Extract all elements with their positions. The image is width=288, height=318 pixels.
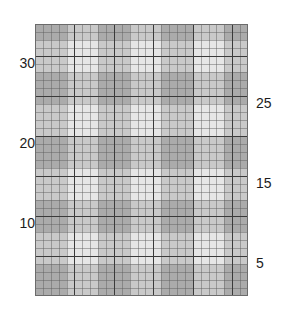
chart-cell[interactable] bbox=[82, 176, 90, 184]
chart-cell[interactable] bbox=[177, 208, 185, 216]
chart-cell[interactable] bbox=[153, 72, 161, 80]
chart-cell[interactable] bbox=[130, 48, 138, 56]
chart-cell[interactable] bbox=[145, 272, 153, 280]
chart-cell[interactable] bbox=[74, 112, 82, 120]
chart-cell[interactable] bbox=[185, 240, 193, 248]
chart-cell[interactable] bbox=[122, 120, 130, 128]
chart-cell[interactable] bbox=[90, 128, 98, 136]
chart-cell[interactable] bbox=[177, 64, 185, 72]
chart-cell[interactable] bbox=[209, 136, 217, 144]
chart-cell[interactable] bbox=[67, 280, 75, 288]
chart-cell[interactable] bbox=[169, 224, 177, 232]
chart-cell[interactable] bbox=[59, 24, 67, 32]
chart-cell[interactable] bbox=[216, 88, 224, 96]
chart-cell[interactable] bbox=[216, 64, 224, 72]
chart-cell[interactable] bbox=[185, 152, 193, 160]
chart-cell[interactable] bbox=[67, 176, 75, 184]
chart-cell[interactable] bbox=[224, 64, 232, 72]
chart-cell[interactable] bbox=[59, 256, 67, 264]
chart-cell[interactable] bbox=[51, 176, 59, 184]
chart-cell[interactable] bbox=[114, 72, 122, 80]
chart-cell[interactable] bbox=[59, 48, 67, 56]
chart-cell[interactable] bbox=[185, 256, 193, 264]
chart-cell[interactable] bbox=[224, 48, 232, 56]
chart-cell[interactable] bbox=[122, 152, 130, 160]
chart-cell[interactable] bbox=[169, 88, 177, 96]
chart-cell[interactable] bbox=[138, 160, 146, 168]
chart-cell[interactable] bbox=[90, 224, 98, 232]
chart-cell[interactable] bbox=[240, 192, 248, 200]
chart-cell[interactable] bbox=[161, 168, 169, 176]
chart-cell[interactable] bbox=[74, 256, 82, 264]
chart-cell[interactable] bbox=[185, 136, 193, 144]
chart-cell[interactable] bbox=[82, 152, 90, 160]
chart-cell[interactable] bbox=[98, 264, 106, 272]
chart-cell[interactable] bbox=[74, 216, 82, 224]
chart-cell[interactable] bbox=[43, 256, 51, 264]
chart-cell[interactable] bbox=[98, 136, 106, 144]
chart-cell[interactable] bbox=[90, 216, 98, 224]
chart-cell[interactable] bbox=[232, 80, 240, 88]
chart-cell[interactable] bbox=[232, 272, 240, 280]
chart-cell[interactable] bbox=[232, 248, 240, 256]
chart-cell[interactable] bbox=[114, 120, 122, 128]
chart-cell[interactable] bbox=[138, 128, 146, 136]
chart-cell[interactable] bbox=[153, 240, 161, 248]
chart-cell[interactable] bbox=[59, 280, 67, 288]
chart-cell[interactable] bbox=[43, 24, 51, 32]
chart-cell[interactable] bbox=[161, 72, 169, 80]
chart-cell[interactable] bbox=[106, 240, 114, 248]
chart-cell[interactable] bbox=[130, 128, 138, 136]
chart-cell[interactable] bbox=[43, 280, 51, 288]
chart-cell[interactable] bbox=[216, 48, 224, 56]
chart-cell[interactable] bbox=[114, 232, 122, 240]
chart-cell[interactable] bbox=[145, 120, 153, 128]
chart-cell[interactable] bbox=[82, 160, 90, 168]
chart-cell[interactable] bbox=[98, 168, 106, 176]
chart-cell[interactable] bbox=[74, 168, 82, 176]
chart-cell[interactable] bbox=[114, 208, 122, 216]
chart-cell[interactable] bbox=[43, 96, 51, 104]
chart-cell[interactable] bbox=[43, 264, 51, 272]
chart-cell[interactable] bbox=[82, 104, 90, 112]
chart-cell[interactable] bbox=[161, 272, 169, 280]
chart-cell[interactable] bbox=[169, 128, 177, 136]
chart-cell[interactable] bbox=[122, 256, 130, 264]
chart-cell[interactable] bbox=[67, 264, 75, 272]
chart-cell[interactable] bbox=[67, 40, 75, 48]
chart-cell[interactable] bbox=[201, 104, 209, 112]
chart-cell[interactable] bbox=[240, 264, 248, 272]
chart-cell[interactable] bbox=[114, 104, 122, 112]
chart-cell[interactable] bbox=[240, 56, 248, 64]
chart-cell[interactable] bbox=[122, 288, 130, 296]
chart-cell[interactable] bbox=[216, 80, 224, 88]
chart-cell[interactable] bbox=[209, 72, 217, 80]
chart-cell[interactable] bbox=[43, 272, 51, 280]
chart-cell[interactable] bbox=[106, 64, 114, 72]
chart-cell[interactable] bbox=[67, 112, 75, 120]
chart-cell[interactable] bbox=[216, 40, 224, 48]
chart-cell[interactable] bbox=[51, 88, 59, 96]
chart-cell[interactable] bbox=[51, 32, 59, 40]
chart-cell[interactable] bbox=[67, 24, 75, 32]
chart-cell[interactable] bbox=[185, 72, 193, 80]
chart-cell[interactable] bbox=[209, 104, 217, 112]
chart-cell[interactable] bbox=[98, 80, 106, 88]
chart-cell[interactable] bbox=[153, 256, 161, 264]
chart-cell[interactable] bbox=[98, 24, 106, 32]
chart-cell[interactable] bbox=[98, 56, 106, 64]
chart-cell[interactable] bbox=[153, 200, 161, 208]
chart-cell[interactable] bbox=[122, 168, 130, 176]
chart-cell[interactable] bbox=[138, 224, 146, 232]
chart-cell[interactable] bbox=[161, 208, 169, 216]
chart-cell[interactable] bbox=[224, 104, 232, 112]
chart-cell[interactable] bbox=[169, 240, 177, 248]
chart-cell[interactable] bbox=[209, 184, 217, 192]
chart-cell[interactable] bbox=[201, 200, 209, 208]
chart-cell[interactable] bbox=[232, 112, 240, 120]
chart-cell[interactable] bbox=[169, 80, 177, 88]
chart-cell[interactable] bbox=[114, 128, 122, 136]
chart-cell[interactable] bbox=[114, 216, 122, 224]
chart-cell[interactable] bbox=[145, 224, 153, 232]
chart-cell[interactable] bbox=[193, 40, 201, 48]
